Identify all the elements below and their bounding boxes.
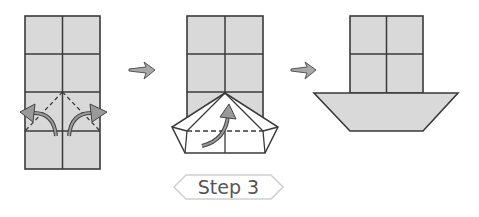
next-step-arrow-icon [291, 62, 316, 79]
step-label: Step 3 [198, 176, 259, 198]
figure-2 [172, 16, 278, 153]
next-step-arrow-icon [129, 62, 155, 79]
figure-1 [20, 16, 107, 169]
figure-3-boat [314, 16, 458, 131]
boat-hull [314, 93, 458, 131]
origami-diagram: Step 3 [0, 0, 479, 217]
step-badge: Step 3 [174, 175, 283, 199]
